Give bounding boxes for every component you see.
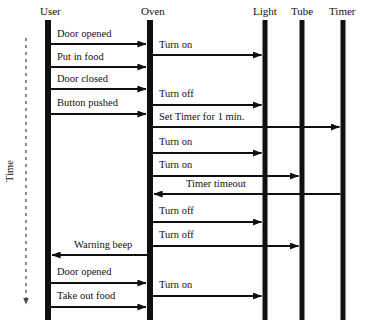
message-label-1: Turn on (159, 39, 193, 50)
lifeline-label-timer: Timer (329, 5, 356, 17)
lifeline-user (45, 20, 51, 320)
lifeline-label-light: Light (253, 5, 277, 17)
message-label-13: Door opened (57, 266, 112, 277)
message-label-2: Put in food (57, 51, 104, 62)
sequence-diagram: Time UserOvenLightTubeTimer Door openedT… (0, 0, 366, 332)
message-label-9: Timer timeout (186, 178, 246, 189)
message-label-5: Button pushed (57, 97, 119, 108)
message-label-4: Turn off (159, 88, 194, 99)
lifeline-timer (341, 20, 346, 320)
sequence-diagram-canvas: Time UserOvenLightTubeTimer Door openedT… (0, 0, 366, 332)
message-label-15: Take out food (57, 290, 116, 301)
messages-group: Door openedTurn onPut in foodDoor closed… (51, 28, 341, 307)
message-label-11: Turn off (159, 229, 194, 240)
lifeline-label-oven: Oven (141, 5, 165, 17)
message-label-0: Door opened (57, 28, 112, 39)
time-axis-label: Time (4, 160, 15, 182)
message-label-7: Turn on (159, 136, 193, 147)
message-label-8: Turn on (159, 159, 193, 170)
message-label-6: Set Timer for 1 min. (159, 111, 244, 122)
message-label-14: Turn on (159, 279, 193, 290)
message-label-10: Turn off (159, 205, 194, 216)
lifeline-label-tube: Tube (291, 5, 313, 17)
message-label-3: Door closed (57, 73, 109, 84)
lifeline-oven (147, 20, 153, 320)
time-axis: Time (4, 38, 26, 304)
lifeline-tube (300, 20, 305, 320)
message-label-12: Warning beep (74, 239, 132, 250)
lifeline-label-user: User (40, 5, 61, 17)
lifeline-light (263, 20, 268, 320)
